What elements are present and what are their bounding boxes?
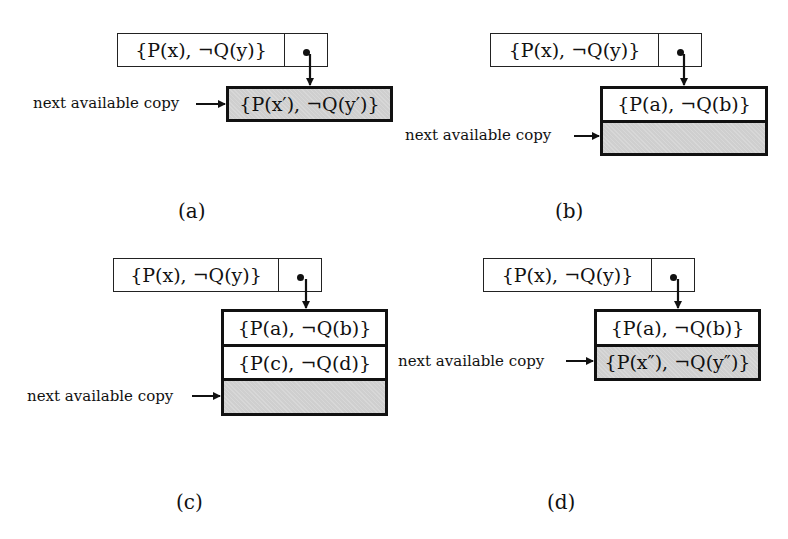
caption-b: (b) [555, 199, 583, 223]
caption-c: (c) [176, 490, 203, 514]
arrows-overlay [0, 0, 788, 539]
caption-a: (a) [178, 199, 206, 223]
caption-d: (d) [547, 490, 575, 514]
